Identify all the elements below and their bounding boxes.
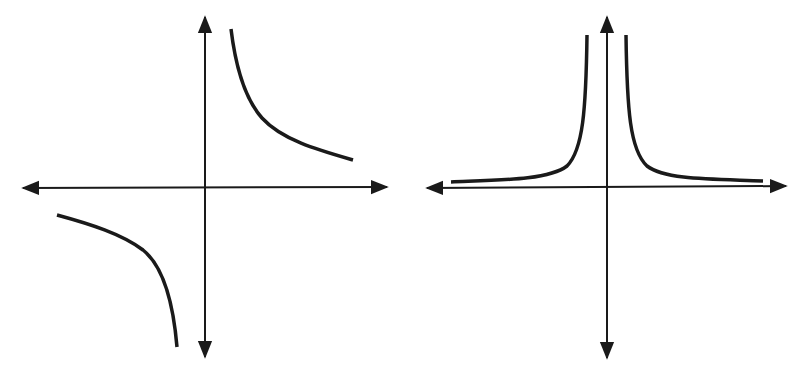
graph-reciprocal-squared xyxy=(427,17,786,358)
curve-branch-q3 xyxy=(57,215,177,347)
graph-reciprocal xyxy=(23,17,387,357)
curve-branch-q2 xyxy=(451,35,587,182)
figure xyxy=(0,0,809,381)
curve-branch-q1 xyxy=(626,35,763,181)
curve-branch-q1 xyxy=(231,29,353,160)
